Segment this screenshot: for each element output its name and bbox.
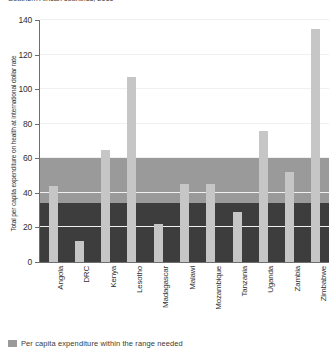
x-tick-label: Tanzania: [240, 266, 249, 296]
x-tick-label: Zimbabwe: [319, 266, 328, 301]
y-tick-label: 40: [8, 188, 32, 198]
gridline: [40, 54, 329, 55]
x-tick-label: DRC: [82, 266, 91, 283]
bar: [259, 131, 268, 262]
bar: [206, 184, 215, 262]
y-tick-label: 80: [8, 119, 32, 129]
y-tick-label: 60: [8, 153, 32, 163]
legend: Per capita expenditure within the range …: [8, 339, 183, 348]
y-tick-mark: [35, 193, 39, 194]
y-tick-mark: [35, 89, 39, 90]
y-axis-line: [39, 20, 40, 263]
y-tick-label: 0: [8, 257, 32, 267]
y-tick-label: 100: [8, 84, 32, 94]
y-tick-label: 120: [8, 50, 32, 60]
y-tick-mark: [35, 262, 39, 263]
x-tick-label: Kenya: [109, 266, 118, 288]
bar: [233, 212, 242, 262]
y-tick-mark: [35, 227, 39, 228]
bar: [75, 241, 84, 262]
legend-label: Per capita expenditure within the range …: [21, 339, 183, 348]
y-tick-mark: [35, 55, 39, 56]
x-tick-label: Madagascar: [161, 266, 170, 308]
bar: [154, 224, 163, 262]
plot-area: [40, 20, 329, 262]
x-tick-label: Angola: [56, 266, 65, 290]
gridline: [40, 157, 329, 158]
x-tick-label: Uganda: [266, 266, 275, 293]
bar: [101, 150, 110, 262]
x-tick-label: Lesotho: [135, 266, 144, 293]
bar: [311, 29, 320, 262]
x-tick-label: Mozambique: [214, 266, 223, 310]
y-tick-mark: [35, 158, 39, 159]
gridline: [40, 19, 329, 20]
y-tick-label: 20: [8, 222, 32, 232]
x-axis-line: [39, 262, 329, 263]
y-tick-label: 140: [8, 15, 32, 25]
y-tick-mark: [35, 20, 39, 21]
x-tick-label: Malawi: [188, 266, 197, 290]
x-tick-label: Zambia: [293, 266, 302, 291]
bar: [49, 186, 58, 262]
legend-swatch-icon: [8, 340, 17, 347]
gridline: [40, 123, 329, 124]
chart-figure: Southern African countries, 2010 Total p…: [0, 0, 335, 348]
bar: [127, 77, 136, 262]
chart-title: Southern African countries, 2010: [8, 0, 114, 3]
y-tick-mark: [35, 124, 39, 125]
bar: [180, 184, 189, 262]
bar: [285, 172, 294, 262]
gridline: [40, 88, 329, 89]
